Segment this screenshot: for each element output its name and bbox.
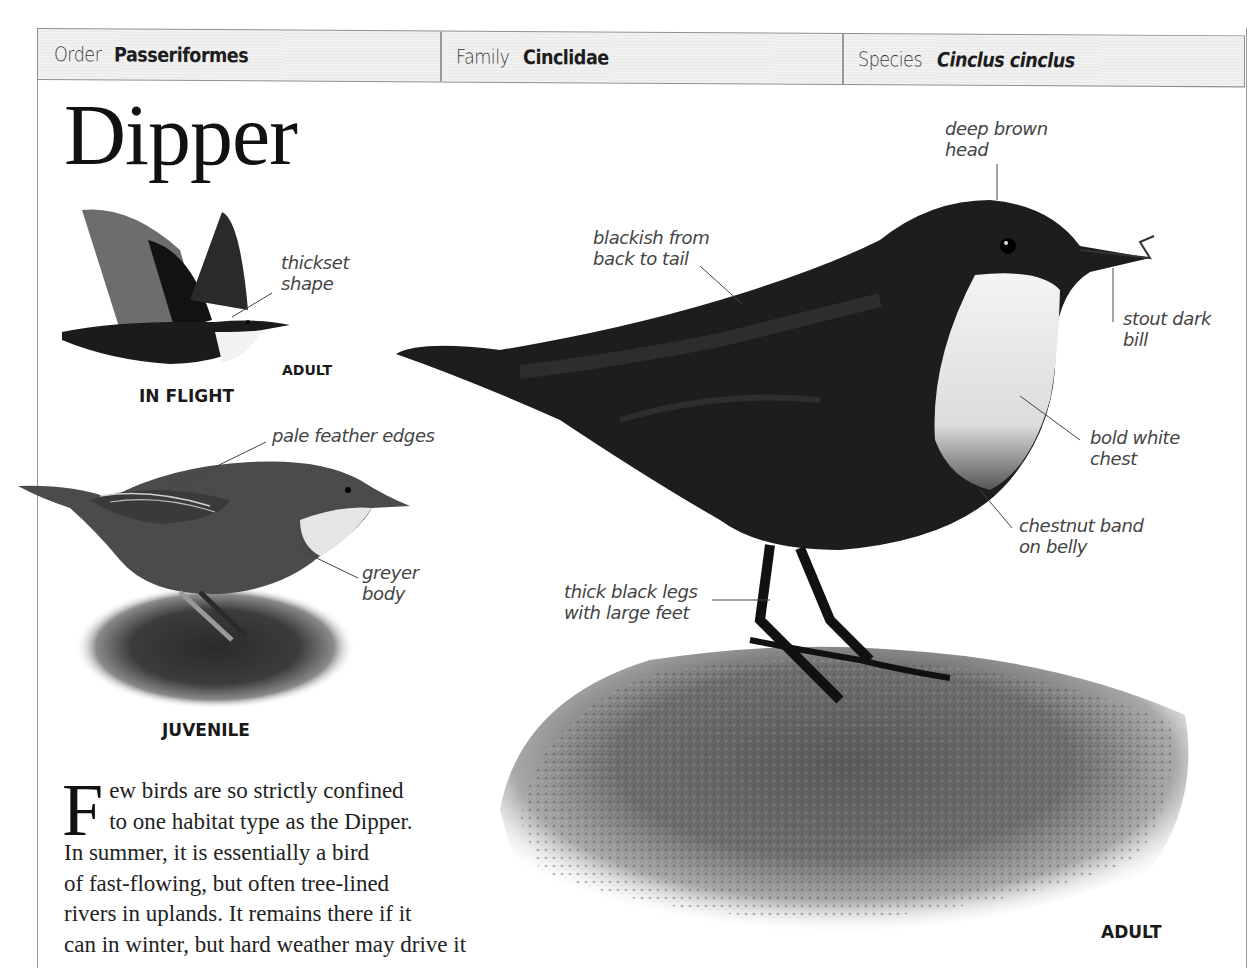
body-line: In summer, it is essentially a bird: [64, 838, 534, 869]
order-value: Passeriformes: [114, 42, 248, 67]
annotation-deep-brown-head: deep brown head: [945, 118, 1048, 160]
order-label: Order: [54, 42, 101, 66]
annotation-line: greyer: [362, 562, 419, 583]
annotation-pale-feather-edges: pale feather edges: [272, 425, 435, 446]
body-text: F ew birds are so strictly confined to o…: [64, 776, 534, 960]
body-line: of fast-flowing, but often tree-lined: [64, 869, 534, 900]
annotation-stout-dark-bill: stout dark bill: [1123, 308, 1211, 350]
body-line: to one habitat type as the Dipper.: [64, 807, 534, 838]
species-value: Cinclus cinclus: [937, 47, 1075, 72]
family-value: Cinclidae: [523, 45, 609, 70]
annotation-line: bold white: [1090, 427, 1180, 448]
annotation-line: shape: [281, 273, 349, 294]
adult-caption: ADULT: [1101, 922, 1162, 942]
annotation-line: chest: [1090, 448, 1180, 469]
in-flight-caption: IN FLIGHT: [139, 386, 234, 406]
annotation-line: deep brown: [945, 118, 1048, 139]
taxonomy-order: Order Passeriformes: [54, 29, 266, 80]
annotation-line: bill: [1123, 329, 1211, 350]
annotation-thick-black-legs: thick black legs with large feet: [564, 581, 698, 623]
annotation-line: body: [362, 583, 419, 604]
body-line: can in winter, but hard weather may driv…: [64, 930, 534, 961]
annotation-greyer-body: greyer body: [362, 562, 419, 604]
annotation-line: back to tail: [593, 248, 709, 269]
family-label: Family: [456, 45, 509, 69]
annotation-line: thick black legs: [564, 581, 698, 602]
annotation-line: blackish from: [593, 227, 709, 248]
annotation-line: head: [945, 139, 1048, 160]
header-divider: [842, 34, 844, 84]
page-title: Dipper: [64, 92, 297, 178]
annotation-bold-white-chest: bold white chest: [1090, 427, 1180, 469]
taxonomy-header: Order Passeriformes Family Cinclidae Spe…: [37, 28, 1245, 87]
taxonomy-species: Species Cinclus cinclus: [858, 34, 1093, 85]
header-divider: [440, 31, 442, 81]
annotation-chestnut-band: chestnut band on belly: [1019, 515, 1144, 557]
annotation-line: pale feather edges: [272, 425, 435, 446]
body-line: ew birds are so strictly confined: [64, 776, 534, 807]
in-flight-sub-caption: ADULT: [282, 362, 332, 378]
juvenile-caption: JUVENILE: [162, 720, 250, 740]
annotation-line: stout dark: [1123, 308, 1211, 329]
annotation-line: chestnut band: [1019, 515, 1144, 536]
annotation-thickset-shape: thickset shape: [281, 252, 349, 294]
taxonomy-family: Family Cinclidae: [456, 32, 620, 83]
annotation-blackish-back: blackish from back to tail: [593, 227, 709, 269]
annotation-line: on belly: [1019, 536, 1144, 557]
body-line: rivers in uplands. It remains there if i…: [64, 899, 534, 930]
drop-cap: F: [62, 782, 103, 838]
annotation-line: with large feet: [564, 602, 698, 623]
species-label: Species: [858, 47, 922, 71]
annotation-line: thickset: [281, 252, 349, 273]
